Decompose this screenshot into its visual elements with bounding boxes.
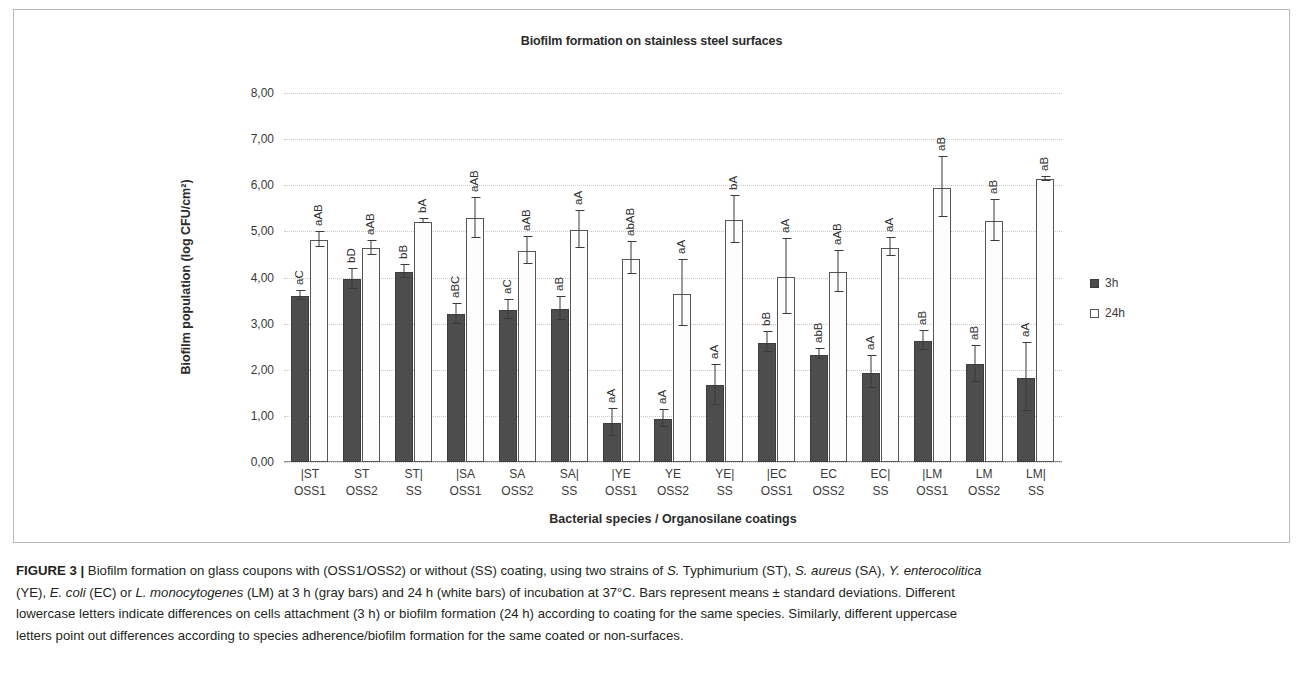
x-tick-label: SA|SS <box>543 466 595 500</box>
bar-slot: bB <box>395 93 413 462</box>
bar-3h[interactable] <box>810 355 828 462</box>
x-axis-title: Bacterial species / Organosilane coating… <box>284 512 1062 526</box>
bar-group: aAaA <box>647 93 699 462</box>
bar-group: aBCaAB <box>440 93 492 462</box>
bar-slot: aB <box>966 93 984 462</box>
bar-3h[interactable] <box>291 296 309 462</box>
figure-page: Biofilm formation on stainless steel sur… <box>0 0 1303 678</box>
bar-slot: aAB <box>829 93 847 462</box>
caption-line-4: letters point out differences according … <box>16 625 1288 647</box>
bar-24h[interactable] <box>622 259 640 462</box>
significance-annotation: aA <box>675 240 687 254</box>
significance-annotation: aB <box>968 326 980 340</box>
x-tick-label: |ECOSS1 <box>751 466 803 500</box>
x-tick-label: |LMOSS1 <box>906 466 958 500</box>
bar-3h[interactable] <box>706 385 724 462</box>
x-tick-label-species: |SA <box>440 466 492 483</box>
bar-slot: aA <box>777 93 795 462</box>
bar-group: aAaB <box>1010 93 1062 462</box>
x-tick-label: YE|SS <box>699 466 751 500</box>
x-tick-label-coating: SS <box>543 483 595 500</box>
significance-annotation: aAB <box>831 223 843 245</box>
bar-24h[interactable] <box>570 230 588 462</box>
bar-3h[interactable] <box>447 314 465 462</box>
bar-3h[interactable] <box>343 279 361 462</box>
significance-annotation: aC <box>501 279 513 294</box>
error-bar <box>475 197 476 238</box>
bar-24h[interactable] <box>362 248 380 462</box>
bar-groups: aCaABbDaABbBbAaBCaABaCaABaBaAaAabABaAaAa… <box>284 93 1062 462</box>
error-bar <box>371 240 372 256</box>
bar-24h[interactable] <box>1036 179 1054 462</box>
bar-24h[interactable] <box>725 220 743 462</box>
error-bar <box>611 408 612 436</box>
x-tick-label-species: |ST <box>284 466 336 483</box>
significance-annotation: aB <box>1038 156 1050 170</box>
bar-3h[interactable] <box>914 341 932 462</box>
bar-slot: aB <box>933 93 951 462</box>
caption-text-2c: (LM) at 3 h (gray bars) and 24 h (white … <box>243 585 955 600</box>
bar-3h[interactable] <box>499 310 517 462</box>
bar-group: aAaA <box>854 93 906 462</box>
bar-24h[interactable] <box>985 221 1003 462</box>
bar-3h[interactable] <box>1017 378 1035 462</box>
bar-slot: bD <box>343 93 361 462</box>
x-tick-label: |YEOSS1 <box>595 466 647 500</box>
x-tick-label-species: YE <box>647 466 699 483</box>
legend-item[interactable]: 24h <box>1090 306 1125 320</box>
bar-24h[interactable] <box>466 218 484 462</box>
bar-group: aCaAB <box>284 93 336 462</box>
legend-swatch-icon <box>1090 309 1099 318</box>
x-tick-label-coating: SS <box>699 483 751 500</box>
bar-slot: aAB <box>518 93 536 462</box>
bar-3h[interactable] <box>654 419 672 462</box>
legend-label: 24h <box>1105 306 1125 320</box>
bar-3h[interactable] <box>551 309 569 462</box>
bar-group: aAabAB <box>595 93 647 462</box>
bar-24h[interactable] <box>881 248 899 462</box>
x-tick-label-species: EC| <box>854 466 906 483</box>
x-tick-label: SAOSS2 <box>491 466 543 500</box>
bar-slot: aA <box>862 93 880 462</box>
significance-annotation: abB <box>812 323 824 343</box>
bar-group: abBaAB <box>803 93 855 462</box>
bar-24h[interactable] <box>829 272 847 462</box>
caption-species-3: Y. enterocolitica <box>889 563 982 578</box>
x-tick-label-species: SA| <box>543 466 595 483</box>
error-bar <box>922 330 923 350</box>
caption-species-2: S. aureus <box>795 563 851 578</box>
bar-group: aBaA <box>543 93 595 462</box>
error-bar <box>578 210 579 249</box>
significance-annotation: bB <box>760 312 772 326</box>
bar-3h[interactable] <box>862 373 880 462</box>
x-tick-label: LM|SS <box>1010 466 1062 500</box>
bar-24h[interactable] <box>933 188 951 462</box>
x-tick-label: LMOSS2 <box>958 466 1010 500</box>
bar-slot: aC <box>291 93 309 462</box>
bar-3h[interactable] <box>603 423 621 462</box>
bar-group: bBbA <box>388 93 440 462</box>
figure-separator: | <box>77 563 88 578</box>
bar-3h[interactable] <box>966 364 984 462</box>
x-tick-label-species: |YE <box>595 466 647 483</box>
significance-annotation: bA <box>727 176 739 190</box>
bar-24h[interactable] <box>777 277 795 462</box>
bar-24h[interactable] <box>518 251 536 462</box>
x-tick-label-coating: OSS2 <box>647 483 699 500</box>
bar-group: aCaAB <box>491 93 543 462</box>
bar-24h[interactable] <box>673 294 691 462</box>
caption-text-2b: (EC) or <box>86 585 136 600</box>
bar-24h[interactable] <box>310 240 328 462</box>
x-tick-label-species: ST| <box>388 466 440 483</box>
x-tick-label-species: ST <box>336 466 388 483</box>
bar-3h[interactable] <box>758 343 776 462</box>
error-bar <box>1026 342 1027 410</box>
x-tick-label-coating: SS <box>1010 483 1062 500</box>
legend-item[interactable]: 3h <box>1090 276 1125 290</box>
error-bar <box>404 264 405 278</box>
bar-slot: aA <box>570 93 588 462</box>
x-tick-label: ST|SS <box>388 466 440 500</box>
bar-24h[interactable] <box>414 222 432 462</box>
bar-3h[interactable] <box>395 272 413 462</box>
figure-caption: FIGURE 3 | Biofilm formation on glass co… <box>16 560 1288 646</box>
